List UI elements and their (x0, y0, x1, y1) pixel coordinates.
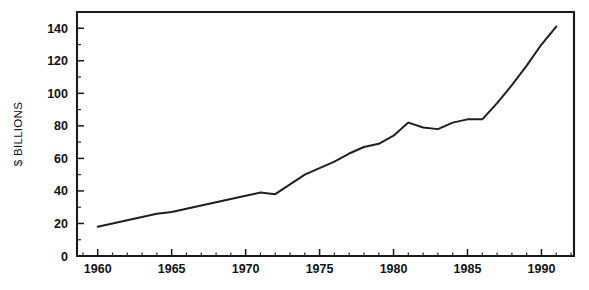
chart-figure: 020406080100120140 196019651970197519801… (0, 0, 589, 290)
x-axis-labels: 1960196519701975198019851990 (84, 262, 556, 276)
y-tick-label: 20 (54, 217, 68, 231)
x-tick-label: 1970 (232, 262, 260, 276)
x-tick-label: 1960 (84, 262, 112, 276)
y-tick-label: 60 (54, 152, 68, 166)
axis-frame (77, 12, 574, 256)
data-line-1 (98, 27, 557, 227)
plot-frame (77, 12, 574, 256)
line-chart: 020406080100120140 196019651970197519801… (0, 0, 589, 290)
y-tick-label: 100 (47, 87, 68, 101)
y-tick-label: 120 (47, 54, 68, 68)
x-tick-label: 1985 (454, 262, 482, 276)
x-tick-label: 1975 (306, 262, 334, 276)
y-tick-label: 0 (61, 250, 68, 264)
y-axis-labels: 020406080100120140 (47, 22, 68, 264)
y-tick-label: 40 (54, 184, 68, 198)
y-tick-label: 80 (54, 119, 68, 133)
y-tick-label: 140 (47, 22, 68, 36)
x-tick-label: 1980 (380, 262, 408, 276)
data-series-group (98, 27, 557, 227)
x-tick-label: 1965 (158, 262, 186, 276)
y-axis-title: $ BILLIONS (12, 102, 24, 166)
x-tick-label: 1990 (528, 262, 556, 276)
